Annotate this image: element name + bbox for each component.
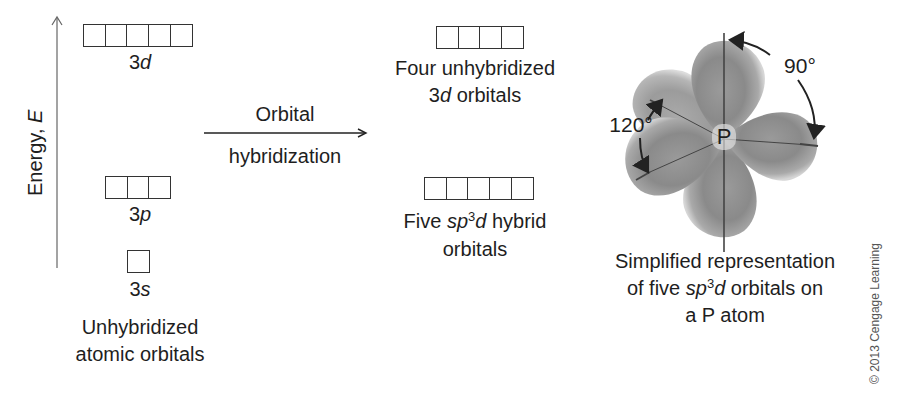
arrow-label-bottom: hybridization [215, 143, 355, 169]
hybrid-caption-line2: orbitals [370, 236, 580, 262]
atom-label-p: P [712, 124, 736, 150]
hybrid-caption-line1: Five sp3d hybrid [370, 208, 580, 234]
right-caption-line3: a P atom [585, 302, 865, 328]
orbital-box [148, 24, 171, 47]
left-caption-line2: atomic orbitals [55, 341, 225, 367]
left-caption-line1: Unhybridized [60, 314, 220, 340]
orbital-box [105, 176, 128, 199]
orbital-box [170, 24, 193, 47]
angle-90-label: 90° [770, 53, 830, 79]
arrow-label-top: Orbital [230, 101, 340, 127]
orbital-box [446, 177, 469, 200]
orbital-box [467, 177, 490, 200]
orbital-boxes-3d [83, 24, 193, 47]
orbital-boxes-unhybridized-3d [436, 26, 524, 49]
label-3s: 3s [110, 276, 170, 302]
orbital-box [501, 26, 524, 49]
copyright-notice: © 2013 Cengage Learning [868, 243, 882, 384]
orbital-box [126, 24, 149, 47]
label-3d: 3d [110, 49, 170, 75]
unhybridized-caption-line1: Four unhybridized [370, 55, 580, 81]
label-3p: 3p [110, 201, 170, 227]
energy-axis-arrow [52, 17, 62, 268]
orbital-box [511, 177, 534, 200]
hybridization-arrow [204, 129, 366, 137]
orbital-box [127, 250, 150, 273]
orbital-boxes-3p [105, 176, 171, 199]
orbital-box [127, 176, 150, 199]
orbital-box [148, 176, 171, 199]
orbital-box [489, 177, 512, 200]
orbital-boxes-3s [127, 250, 150, 273]
energy-axis-label: Energy, E [24, 110, 47, 196]
right-caption-line2: of five sp3d orbitals on [585, 275, 865, 301]
orbital-boxes-sp3d-hybrid [424, 177, 534, 200]
orbital-box [479, 26, 502, 49]
right-caption-line1: Simplified representation [585, 248, 865, 274]
orbital-box [105, 24, 128, 47]
orbital-box [436, 26, 459, 49]
unhybridized-caption-line2: 3d orbitals [370, 82, 580, 108]
orbital-box [424, 177, 447, 200]
angle-120-label: 120° [603, 112, 659, 138]
orbital-box [458, 26, 481, 49]
orbital-box [83, 24, 106, 47]
